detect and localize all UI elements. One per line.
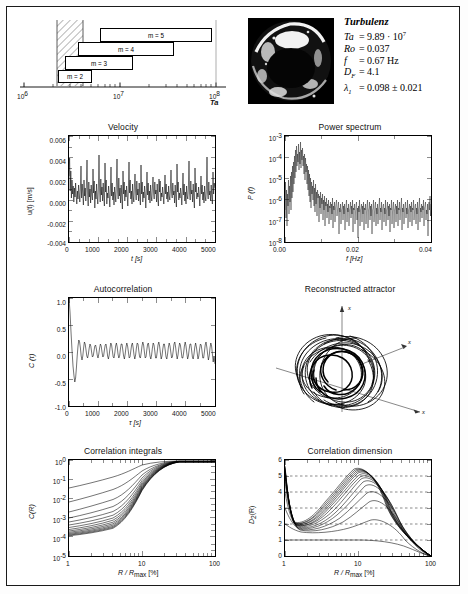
velocity-ytick-0000: 0.000 [28, 200, 66, 207]
autocorrelation-xtick-5000: 5000 [201, 410, 216, 417]
correlation-integrals-yaxis-label: C(R) [28, 504, 35, 519]
panel-autocorrelation: Autocorrelation 1.0 0.5 0.0 -0.5 -1.0 0 … [14, 284, 232, 436]
velocity-title: Velocity [14, 122, 232, 132]
correlation-dimension-ytick-0: 0 [258, 552, 282, 559]
autocorrelation-plot-area [68, 297, 216, 407]
correlation-dimension-yaxis-label-suffix: (R) [248, 506, 255, 516]
correlation-dimension-xaxis-label-base: R / R [334, 569, 350, 576]
correlation-integrals-ytick-1e-5: 10-5 [34, 552, 66, 562]
turbulence-row-df: DF = 4.1 [344, 66, 423, 82]
correlation-dimension-plot-area [284, 459, 432, 557]
panel-correlation-dimension: Correlation dimension [244, 446, 456, 586]
power-spectrum-xtick-002: 0.02 [346, 246, 359, 253]
embedding-box-m3-label: m = 3 [91, 60, 107, 67]
turbulence-eq-ro: = [359, 43, 367, 55]
turbulence-row-ro: Ro = 0.037 [344, 43, 423, 55]
panel-power-spectrum: Power spectrum 10-3 10-4 10-5 10-6 [244, 122, 456, 272]
power-spectrum-ytick-1e-3-exp: -3 [276, 132, 282, 139]
correlation-dimension-ytick-6: 6 [258, 456, 282, 463]
figure-page: m = 2 m = 3 m = 4 m = 5 106 107 108 Ta [0, 0, 468, 594]
embedding-box-m4: m = 4 [78, 42, 174, 56]
velocity-trace-svg [69, 136, 215, 242]
correlation-dimension-xaxis-label-sub: max [350, 571, 362, 578]
correlation-dimension-ytick-2: 2 [258, 520, 282, 527]
correlation-dimension-ytick-5: 5 [258, 472, 282, 479]
correlation-dimension-xtick-100: 100 [425, 560, 436, 567]
embedding-box-m3: m = 3 [65, 56, 133, 70]
power-spectrum-yaxis-label: P (f) [247, 187, 254, 200]
power-spectrum-ytick-1e-7-exp: -7 [276, 216, 282, 223]
power-spectrum-ytick-1e-5: 10-5 [248, 174, 282, 184]
embedding-box-m5: m = 5 [100, 28, 212, 42]
reconstructed-attractor-title: Reconstructed attractor [244, 284, 456, 294]
turbulence-symbol-lambda-sub: 1 [348, 88, 351, 95]
embedding-xtick-1e6: 106 [17, 90, 28, 100]
power-spectrum-side-watermark [440, 231, 444, 232]
panel-turbulence-info: Turbulenz Ta = 9.89 · 107 Ro = 0.037 f =… [244, 14, 456, 112]
correlation-integrals-ytick-1e-5-exp: -5 [60, 552, 66, 559]
turbulence-value-lambda: 0.098 ± 0.021 [367, 82, 423, 94]
power-spectrum-ytick-1e-6-exp: -6 [276, 195, 282, 202]
correlation-dimension-xaxis-label: R / Rmax [%] [334, 569, 374, 578]
autocorrelation-side-watermark [222, 395, 226, 396]
autocorrelation-xtick-4000: 4000 [172, 410, 187, 417]
power-spectrum-ytick-1e-5-exp: -5 [276, 174, 282, 181]
turbulence-eq-f: = [359, 55, 367, 67]
autocorrelation-title: Autocorrelation [14, 284, 232, 294]
embedding-xtick-1e7: 107 [113, 90, 124, 100]
correlation-dimension-ytick-4: 4 [258, 488, 282, 495]
panel-embedding-dimension-diagram: m = 2 m = 3 m = 4 m = 5 106 107 108 Ta [14, 12, 232, 112]
correlation-dimension-yaxis-label-base: D [248, 519, 255, 524]
correlation-dimension-ytick-3: 3 [258, 504, 282, 511]
correlation-integrals-ytick-1e-3-exp: -3 [60, 514, 66, 521]
velocity-xtick-1000: 1000 [85, 246, 100, 253]
turbulence-row-ta: Ta = 9.89 · 107 [344, 28, 423, 43]
embedding-box-m2-label: m = 2 [67, 73, 83, 80]
turbulence-symbol-lambda: λ1 [344, 82, 359, 98]
power-spectrum-title: Power spectrum [244, 122, 456, 132]
correlation-integrals-ytick-1e0-exp: 0 [62, 456, 66, 463]
autocorrelation-xaxis-label: τ [s] [129, 419, 141, 426]
autocorrelation-ytick-00: 0.0 [30, 353, 66, 360]
velocity-side-watermark [222, 231, 226, 232]
attractor-axis-label-x1: x [421, 408, 425, 415]
turbulence-symbol-df: DF [344, 66, 359, 82]
embedding-box-m5-label: m = 5 [148, 32, 164, 39]
autocorrelation-trace-svg [69, 298, 215, 406]
correlation-dimension-yaxis-label: D2(R) [248, 506, 257, 524]
correlation-integrals-ytick-1e-1-exp: -1 [60, 475, 66, 482]
correlation-integrals-title: Correlation integrals [14, 446, 232, 456]
turbulence-parameter-list: Turbulenz Ta = 9.89 · 107 Ro = 0.037 f =… [344, 16, 423, 97]
embedding-xaxis-label: Ta [210, 98, 218, 107]
embedding-box-m4-label: m = 4 [118, 46, 134, 53]
correlation-integrals-ytick-1e-2-exp: -2 [60, 494, 66, 501]
correlation-dimension-ytick-1: 1 [258, 536, 282, 543]
turbulence-eq-ta: = [359, 31, 367, 43]
power-spectrum-xtick-004: 0.04 [419, 246, 432, 253]
panel-velocity: Velocity 0.006 0.004 0.002 0.000 -0.002 … [14, 122, 232, 272]
correlation-dimension-xtick-10: 10 [354, 560, 361, 567]
velocity-xtick-4000: 4000 [172, 246, 187, 253]
autocorrelation-xtick-3000: 3000 [143, 410, 158, 417]
autocorrelation-xtick-2000: 2000 [114, 410, 129, 417]
attractor-axis-label-vertical: x [347, 304, 351, 311]
turbulence-photograph [248, 18, 334, 104]
panel-reconstructed-attractor: Reconstructed attractor [244, 284, 456, 436]
power-spectrum-plot-area [284, 135, 432, 243]
turbulence-value-ro: 0.037 [367, 43, 390, 55]
velocity-ytick-m0002: -0.002 [28, 221, 66, 228]
correlation-integrals-xaxis-label: R / Rmax [%] [118, 569, 158, 578]
correlation-dimension-xtick-1: 1 [282, 560, 286, 567]
power-spectrum-ytick-1e-7: 10-7 [248, 216, 282, 226]
correlation-integrals-plot-area [68, 459, 216, 557]
velocity-xtick-3000: 3000 [143, 246, 158, 253]
correlation-integrals-ytick-1e-1: 10-1 [34, 475, 66, 485]
turbulence-title: Turbulenz [344, 16, 423, 27]
power-spectrum-xtick-000: 0.00 [273, 246, 286, 253]
velocity-xaxis-label: t [s] [131, 255, 142, 262]
autocorrelation-ytick-m05: -0.5 [30, 380, 66, 387]
embedding-xtick-1e7-exp: 7 [120, 90, 124, 97]
turbulence-eq-lambda: = [359, 82, 367, 94]
turbulence-row-f: f = 0.67 Hz [344, 55, 423, 67]
attractor-svg: x x x [244, 294, 456, 434]
